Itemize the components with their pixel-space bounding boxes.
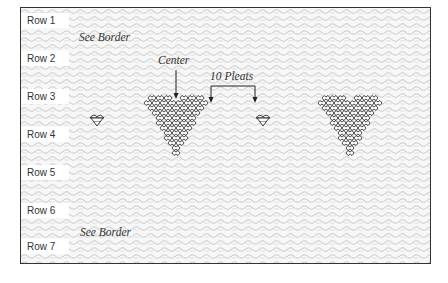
small-motif-center — [256, 115, 270, 126]
ten-pleats-bracket — [211, 86, 255, 100]
small-motif-left — [90, 115, 104, 126]
motif-overlay — [0, 0, 448, 283]
heart-motif-right — [318, 96, 382, 156]
heart-motif-left — [144, 96, 208, 156]
